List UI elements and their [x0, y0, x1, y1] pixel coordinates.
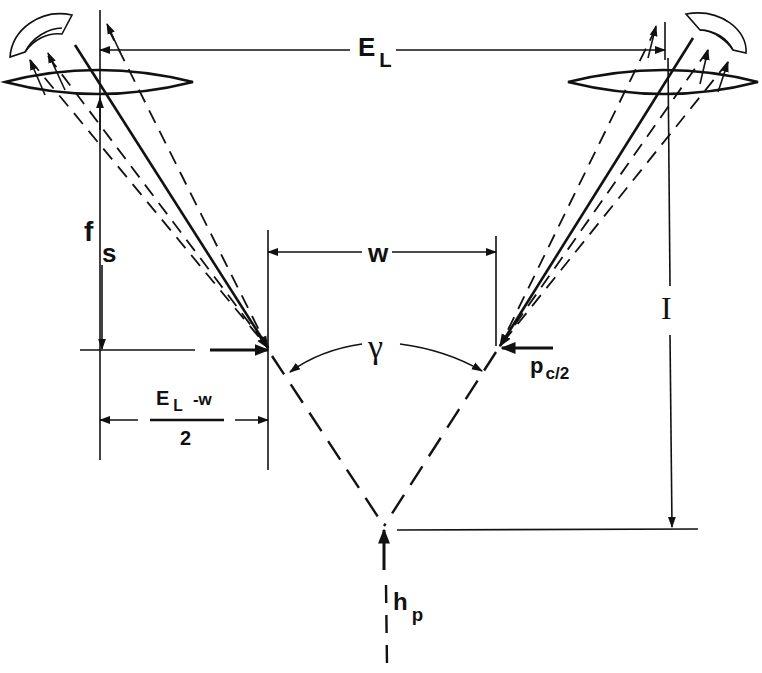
label-i: I [661, 290, 672, 326]
label-hd-l: L [173, 397, 183, 414]
label-fs-main: f [84, 216, 93, 247]
label-gamma: γ [368, 328, 383, 365]
label-convergence-angle: γ [368, 330, 383, 364]
label-fs-sub: s [102, 238, 116, 268]
label-w: w [368, 238, 388, 268]
label-depth: hp [393, 590, 423, 614]
label-pc-sub: c/2 [545, 363, 569, 383]
convergence-angle-arc [290, 344, 482, 372]
label-hd-e: E [156, 387, 169, 409]
label-half-difference-denominator: 2 [180, 428, 191, 448]
label-focal-length-sub: s [102, 240, 116, 266]
label-hd-2: 2 [180, 427, 191, 449]
label-eye-separation: EL [358, 34, 392, 60]
depth-dimension [384, 530, 387, 665]
left-eye-icon [10, 14, 72, 57]
convergence-lines [272, 352, 496, 526]
label-hp-sub: p [412, 604, 423, 625]
label-hp-main: h [393, 588, 408, 615]
label-focal-length: f [84, 218, 93, 246]
label-hd-minus-w: -w [193, 390, 212, 409]
right-eye-icon [686, 13, 746, 53]
label-image-width: w [368, 240, 388, 266]
label-parallax: pc/2 [530, 355, 569, 377]
right-lens [568, 70, 758, 94]
label-el-sub: L [379, 49, 391, 71]
label-half-difference-numerator: EL-w [156, 388, 212, 408]
label-viewing-distance: I [661, 292, 672, 324]
label-el-main: E [358, 32, 375, 62]
label-pc-main: p [530, 353, 543, 378]
